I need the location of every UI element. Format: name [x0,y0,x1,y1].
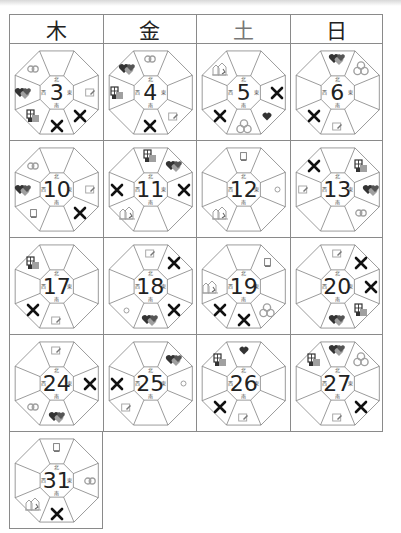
compass-e-label: 東 [253,90,261,95]
day-cell-24[interactable]: 北東南西24 [9,335,103,432]
calendar-week-row: 北東南西24北東南西25北東南西26北東南西27 [9,335,383,432]
compass-n-label: 北 [146,271,154,276]
compass-s-label: 南 [146,200,154,205]
compass-w-label: 西 [133,187,141,192]
building-icon [141,148,159,164]
compass-w-label: 西 [133,284,141,289]
coins-icon [258,302,276,318]
day-cell-11[interactable]: 北東南西11 [103,141,197,238]
compass-w-label: 西 [40,478,48,483]
day-cell-3[interactable]: 北東南西3 [9,44,103,141]
compass-s-label: 南 [240,394,248,399]
compass-n-label: 北 [53,271,61,276]
x-mark-icon [352,399,370,415]
x-mark-icon [165,255,183,271]
day-cell-6[interactable]: 北東南西6 [290,44,384,141]
compass-n-label: 北 [333,368,341,373]
x-mark-icon [362,279,380,295]
day-cell-25[interactable]: 北東南西25 [103,335,197,432]
compass-n-label: 北 [240,174,248,179]
rings-icon [81,473,99,489]
compass-e-label: 東 [346,284,354,289]
building-icon [352,158,370,174]
card-icon [81,182,99,198]
day-cell-17[interactable]: 北東南西17 [9,238,103,335]
day-cell-20[interactable]: 北東南西20 [290,238,384,335]
compass-n-label: 北 [146,368,154,373]
header-thursday: 木 [9,14,103,44]
card-icon [328,245,346,261]
circle-icon [268,182,286,198]
house-icon [211,205,229,221]
card-icon [141,245,159,261]
hearts-icon [328,51,346,67]
compass-e-label: 東 [253,187,261,192]
compass-s-label: 南 [333,297,341,302]
compass-n-label: 北 [333,77,341,82]
header-saturday: 土 [196,14,290,44]
x-mark-icon [305,108,323,124]
compass-s-label: 南 [333,200,341,205]
building-icon [211,352,229,368]
compass-e-label: 東 [159,187,167,192]
rings-icon [24,399,42,415]
card-icon [48,312,66,328]
compass-w-label: 西 [320,284,328,289]
circle-icon [175,376,193,392]
day-cell-4[interactable]: 北東南西4 [103,44,197,141]
compass-s-label: 南 [53,200,61,205]
day-cell-19[interactable]: 北東南西19 [196,238,290,335]
calendar-week-row: 北東南西3北東南西4北東南西5北東南西6 [9,44,383,141]
day-cell-5[interactable]: 北東南西5 [196,44,290,141]
header-sunday: 日 [290,14,384,44]
card-icon [295,182,313,198]
compass-w-label: 西 [133,381,141,386]
heart-icon [258,108,276,124]
x-mark-icon [268,85,286,101]
compass-e-label: 東 [66,187,74,192]
compass-e-label: 東 [346,381,354,386]
compass-n-label: 北 [240,368,248,373]
day-cell-10[interactable]: 北東南西10 [9,141,103,238]
day-cell-18[interactable]: 北東南西18 [103,238,197,335]
x-mark-icon [211,108,229,124]
compass-n-label: 北 [53,465,61,470]
card-icon [48,342,66,358]
compass-s-label: 南 [53,394,61,399]
hearts-icon [362,182,380,198]
compass-w-label: 西 [320,381,328,386]
day-cell-12[interactable]: 北東南西12 [196,141,290,238]
empty-cell [196,432,290,529]
hearts-icon [14,182,32,198]
compass-e-label: 東 [66,284,74,289]
compass-e-label: 東 [346,187,354,192]
compass-w-label: 西 [40,381,48,386]
building-icon [352,302,370,318]
compass-e-label: 東 [159,284,167,289]
hearts-icon [141,312,159,328]
x-mark-icon [211,399,229,415]
day-cell-27[interactable]: 北東南西27 [290,335,384,432]
day-cell-26[interactable]: 北東南西26 [196,335,290,432]
compass-s-label: 南 [146,394,154,399]
coins-icon [352,61,370,77]
compass-e-label: 東 [66,478,74,483]
coins-icon [235,118,253,134]
card-icon [81,85,99,101]
coins-icon [352,352,370,368]
page-top-shadow [0,0,401,6]
compass-n-label: 北 [333,271,341,276]
compass-w-label: 西 [40,90,48,95]
house-icon [211,61,229,77]
empty-cell [290,432,384,529]
x-mark-icon [175,182,193,198]
x-mark-icon [305,158,323,174]
house-icon [118,205,136,221]
day-cell-13[interactable]: 北東南西13 [290,141,384,238]
compass-n-label: 北 [53,174,61,179]
compass-w-label: 西 [320,90,328,95]
house-icon [201,279,219,295]
x-mark-icon [141,118,159,134]
book-icon [235,148,253,164]
day-cell-31[interactable]: 北東南西31 [9,432,103,529]
